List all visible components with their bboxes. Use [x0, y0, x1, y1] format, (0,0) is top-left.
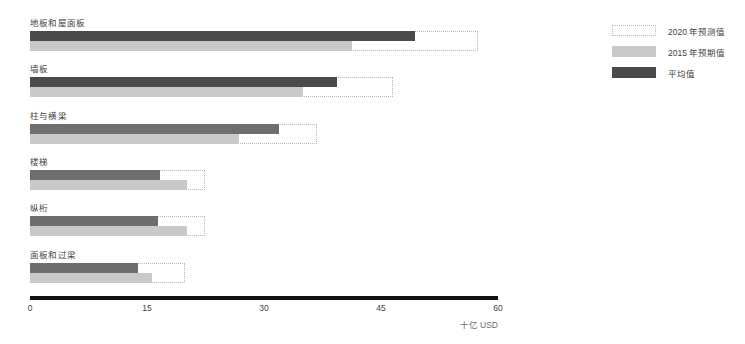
bar-expected-2015	[30, 41, 352, 51]
bar-expected-2015	[30, 226, 187, 236]
bar-group-label: 柱与横梁	[30, 111, 67, 121]
legend-swatch-2015-icon	[612, 46, 656, 57]
bar-group-label: 楼梯	[30, 157, 48, 167]
bar-stack	[30, 77, 498, 97]
x-axis-tick-30: 30	[259, 303, 268, 313]
bar-average	[30, 124, 279, 134]
bar-stack	[30, 170, 498, 190]
legend-swatch-average-icon	[612, 67, 656, 78]
bar-average	[30, 77, 337, 87]
legend-label: 2020 年预测值	[668, 25, 725, 37]
bar-expected-2015	[30, 87, 303, 97]
legend-item-expected-2015: 2015 年预期值	[612, 43, 742, 60]
x-axis-tick-60: 60	[493, 303, 502, 313]
legend-item-forecast-2020: 2020 年预测值	[612, 22, 742, 39]
chart-root: 地板和屋面板 墙板 柱与横梁	[0, 0, 745, 344]
bar-group-label: 面板和过梁	[30, 250, 76, 260]
legend-swatch-forecast-icon	[612, 25, 656, 36]
bar-average	[30, 263, 138, 273]
legend-label: 平均值	[668, 67, 695, 79]
bar-stack	[30, 263, 498, 283]
bar-expected-2015	[30, 134, 239, 144]
bar-average	[30, 216, 158, 226]
bar-average	[30, 31, 415, 41]
bar-group-label: 纵桁	[30, 203, 48, 213]
legend-item-average: 平均值	[612, 64, 742, 81]
bar-expected-2015	[30, 180, 187, 190]
legend: 2020 年预测值 2015 年预期值 平均值	[612, 22, 742, 85]
bar-group-label: 地板和屋面板	[30, 18, 85, 28]
plot-area: 地板和屋面板 墙板 柱与横梁	[30, 18, 498, 296]
bar-stack	[30, 216, 498, 236]
x-axis-tick-15: 15	[142, 303, 151, 313]
bar-group-label: 墙板	[30, 64, 48, 74]
legend-label: 2015 年预期值	[668, 46, 725, 58]
bar-stack	[30, 31, 498, 51]
bar-stack	[30, 124, 498, 144]
x-axis-tick-0: 0	[28, 303, 33, 313]
x-axis-tick-45: 45	[376, 303, 385, 313]
x-axis-unit-label: 十亿 USD	[460, 318, 498, 330]
bar-average	[30, 170, 160, 180]
x-axis-line	[30, 296, 498, 300]
bar-expected-2015	[30, 273, 152, 283]
